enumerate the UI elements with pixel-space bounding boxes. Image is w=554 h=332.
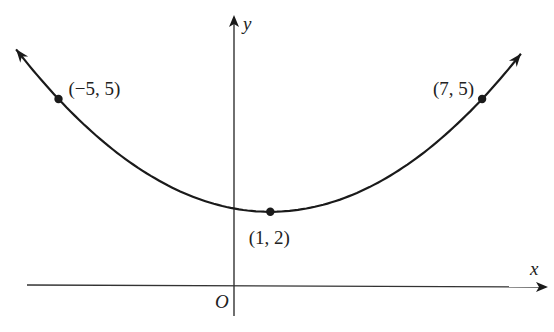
x-axis-label: x — [529, 258, 539, 279]
point-label: (−5, 5) — [69, 78, 121, 100]
point-marker — [266, 208, 274, 216]
x-axis — [27, 285, 546, 287]
point-label: (7, 5) — [433, 78, 474, 100]
y-axis-label: y — [241, 13, 252, 34]
origin-label: O — [215, 291, 229, 312]
parabola-curve — [16, 49, 521, 211]
parabola-diagram: x y O (−5, 5)(7, 5)(1, 2) — [0, 0, 554, 332]
points-layer: (−5, 5)(7, 5)(1, 2) — [16, 49, 521, 248]
point-label: (1, 2) — [249, 227, 290, 249]
point-marker — [54, 95, 62, 103]
point-marker — [478, 95, 486, 103]
